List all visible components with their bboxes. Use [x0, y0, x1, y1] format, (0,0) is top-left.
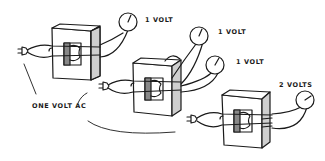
meter1-label: 1 VOLT — [145, 16, 173, 24]
voltmeter-3-icon — [206, 56, 224, 74]
plug-icon — [99, 82, 109, 90]
transformer-1 — [18, 13, 137, 80]
plug-icon — [18, 47, 28, 55]
diagram-drawing — [0, 0, 325, 161]
voltmeter-2-icon — [190, 27, 208, 45]
transformer-diagram: 1 VOLT 1 VOLT 1 VOLT 2 VOLTS ONE VOLT AC — [0, 0, 325, 161]
transformer-3 — [187, 90, 314, 148]
meter3-label: 1 VOLT — [236, 58, 264, 66]
voltmeter-1-icon — [119, 13, 137, 31]
plug-icon — [187, 115, 197, 123]
voltmeter-4-icon — [296, 91, 314, 109]
meter2-label: 1 VOLT — [218, 28, 246, 36]
transformer-2 — [99, 27, 224, 116]
source-label: ONE VOLT AC — [32, 102, 86, 110]
meter4-label: 2 VOLTS — [279, 81, 313, 89]
